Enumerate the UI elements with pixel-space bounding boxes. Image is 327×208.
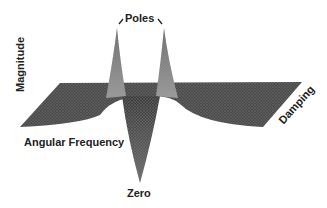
zero-label: Zero bbox=[127, 187, 151, 199]
pole-pointer-left bbox=[119, 19, 123, 24]
surface-plot bbox=[0, 0, 327, 208]
frequency-axis-label: Angular Frequency bbox=[24, 136, 124, 148]
poles-label: Poles bbox=[125, 12, 154, 24]
pole-pointer-right bbox=[158, 19, 162, 24]
magnitude-axis-label: Magnitude bbox=[14, 37, 26, 92]
